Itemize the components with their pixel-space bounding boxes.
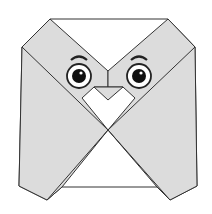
left-pupil xyxy=(72,69,86,83)
left-eye-highlight xyxy=(79,71,82,74)
right-pupil xyxy=(132,69,146,83)
origami-owl-illustration xyxy=(0,0,212,214)
right-eye-highlight xyxy=(139,71,142,74)
